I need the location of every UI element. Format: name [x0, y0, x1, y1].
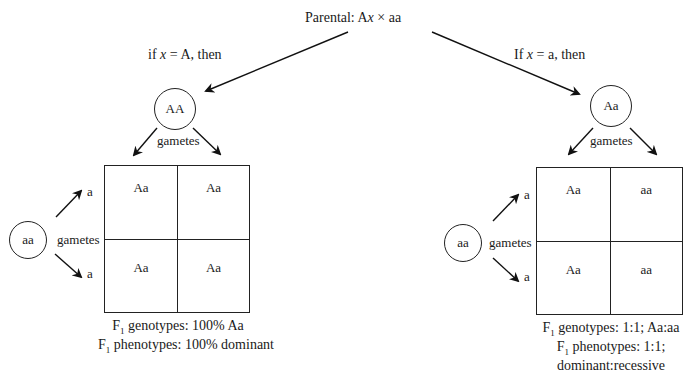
left-punnett-cell: Aa: [177, 166, 249, 239]
arrow-left-side-gamete-1: [56, 191, 81, 217]
left-parent-top-genotype: AA: [166, 101, 185, 117]
parental-prefix: Parental: A: [305, 10, 368, 25]
left-gametes-label-top: gametes: [157, 133, 200, 149]
right-gametes-label-top: gametes: [590, 133, 633, 149]
left-punnett-cell: Aa: [105, 239, 177, 312]
left-result-phenotypes: F1 phenotypes: 100% dominant: [98, 337, 258, 355]
right-side-gamete-2: a: [524, 269, 530, 285]
right-punnett-cell: aa: [610, 241, 683, 314]
left-punnett-square: Aa Aa Aa Aa: [104, 165, 250, 313]
arrow-right-side-gamete-1: [493, 195, 518, 221]
left-punnett-cell: Aa: [105, 166, 177, 239]
right-parent-top-circle: Aa: [590, 85, 632, 127]
result-text: genotypes: 100% Aa: [124, 318, 243, 333]
right-punnett-cell: aa: [610, 168, 683, 241]
arrow-parental-to-right: [432, 32, 579, 94]
left-condition: if x = A, then: [148, 47, 222, 63]
right-result-genotypes: F1 genotypes: 1:1; Aa:aa: [532, 320, 690, 338]
result-text: phenotypes: 100% dominant: [110, 337, 274, 352]
left-parent-side-circle: aa: [9, 221, 47, 259]
right-condition-prefix: If: [514, 47, 527, 62]
right-parent-top-genotype: Aa: [603, 98, 618, 114]
arrow-left-side-gamete-2: [55, 254, 81, 277]
right-condition-suffix: = a, then: [533, 47, 585, 62]
f-label: F: [112, 318, 120, 333]
parental-title: Parental: Ax × aa: [305, 10, 401, 26]
left-side-gamete-2: a: [87, 266, 93, 282]
right-punnett-square: Aa aa Aa aa: [536, 167, 683, 315]
arrow-parental-to-left: [206, 32, 348, 91]
left-side-gamete-1: a: [87, 184, 93, 200]
left-condition-prefix: if: [148, 47, 160, 62]
arrow-left-gamete-1: [134, 128, 157, 155]
right-side-gamete-1: a: [524, 187, 530, 203]
right-gametes-label-side: gametes: [489, 235, 532, 251]
right-punnett-cell: Aa: [537, 241, 610, 314]
result-text: genotypes: 1:1; Aa:aa: [555, 320, 680, 335]
parental-suffix: × aa: [374, 10, 401, 25]
left-gametes-label-side: gametes: [57, 232, 100, 248]
right-result-phenotypes: F1 phenotypes: 1:1;: [532, 339, 690, 357]
right-parent-side-circle: aa: [444, 224, 482, 262]
left-result-genotypes: F1 genotypes: 100% Aa: [98, 318, 258, 336]
right-condition: If x = a, then: [514, 47, 585, 63]
right-result-phenotype-ratio: dominant:recessive: [532, 358, 690, 374]
f-label: F: [98, 337, 106, 352]
right-punnett-cell: Aa: [537, 168, 610, 241]
left-parent-top-circle: AA: [154, 88, 196, 130]
left-condition-suffix: = A, then: [166, 47, 221, 62]
left-punnett-cell: Aa: [177, 239, 249, 312]
right-parent-side-genotype: aa: [457, 235, 469, 251]
arrow-right-gamete-2: [630, 128, 656, 154]
right-results: F1 genotypes: 1:1; Aa:aa F1 phenotypes: …: [532, 320, 690, 374]
left-parent-side-genotype: aa: [22, 232, 34, 248]
arrow-right-side-gamete-2: [493, 258, 518, 281]
left-results: F1 genotypes: 100% Aa F1 phenotypes: 100…: [98, 318, 258, 355]
result-text: phenotypes: 1:1;: [569, 339, 665, 354]
